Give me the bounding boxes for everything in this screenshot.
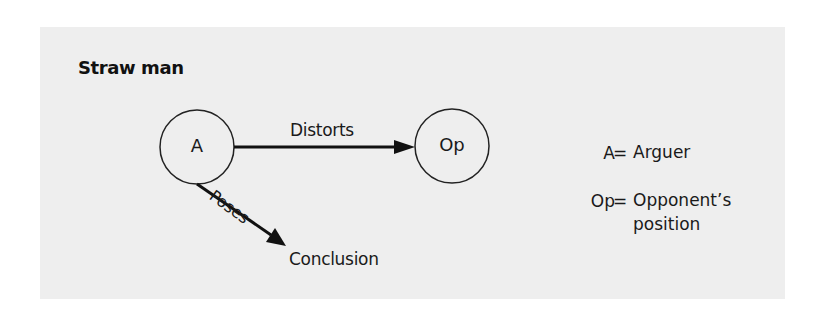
legend-value: Arguer [633,140,690,164]
legend-key: A [560,143,615,163]
edge-distorts-arrowhead [394,140,415,154]
node-a-label: A [160,135,234,156]
edge-poses-arrowhead [266,228,286,246]
node-op-label: Op [415,134,489,155]
legend-equals: = [611,191,629,211]
legend-value-line2: position [633,212,700,236]
diagram-canvas [0,0,824,322]
legend-value: Opponent’s [633,188,731,212]
legend-equals: = [611,143,629,163]
conclusion-label: Conclusion [289,249,379,269]
edge-distorts-label: Distorts [290,120,354,140]
legend-key: Op [560,191,615,211]
